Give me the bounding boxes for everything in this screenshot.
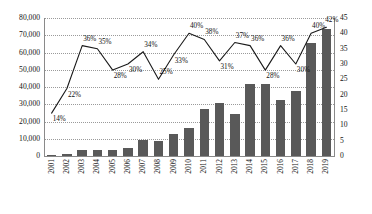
right-axis-tick-label: 30 — [340, 60, 364, 68]
x-axis-label: 2015 — [261, 159, 269, 174]
x-axis-label: 2012 — [216, 159, 224, 174]
data-label: 28% — [114, 72, 127, 80]
data-label: 42% — [325, 16, 338, 24]
x-axis-label: 2018 — [307, 159, 315, 174]
right-axis-tick-label: 15 — [340, 106, 364, 114]
x-axis-label: 2001 — [48, 159, 56, 174]
x-axis-label: 2002 — [63, 159, 71, 174]
x-axis-label: 2008 — [154, 159, 162, 174]
right-axis-tick-label: 0 — [340, 152, 364, 160]
data-label: 30% — [129, 66, 142, 74]
x-axis-label: 2014 — [246, 159, 254, 174]
right-axis-tick-label: 40 — [340, 29, 364, 37]
right-axis-tick-label: 20 — [340, 91, 364, 99]
left-axis-tick-label: 0 — [0, 152, 40, 160]
data-label: 28% — [266, 72, 279, 80]
x-axis-label: 2007 — [139, 159, 147, 174]
left-axis-tick-label: 60,000 — [0, 49, 40, 57]
x-axis-label: 2019 — [322, 159, 330, 174]
data-label: 37% — [236, 32, 249, 40]
data-label: 34% — [144, 41, 157, 49]
data-label: 14% — [53, 115, 66, 123]
chart-container: 010,00020,00030,00040,00050,00060,00070,… — [0, 0, 372, 214]
x-axis-label: 2010 — [185, 159, 193, 174]
left-axis-tick-label: 50,000 — [0, 66, 40, 74]
data-label: 38% — [205, 28, 218, 36]
left-axis-tick-label: 40,000 — [0, 83, 40, 91]
x-axis-label: 2009 — [170, 159, 178, 174]
data-label: 36% — [251, 35, 264, 43]
right-axis-tick-label: 45 — [340, 14, 364, 22]
data-label: 30% — [297, 66, 310, 74]
left-axis-tick-label: 10,000 — [0, 135, 40, 143]
left-axis-tick-label: 80,000 — [0, 14, 40, 22]
x-axis-label: 2017 — [292, 159, 300, 174]
right-axis-tick-label: 35 — [340, 45, 364, 53]
data-label: 40% — [312, 22, 325, 30]
x-axis-label: 2011 — [200, 159, 208, 174]
x-axis-label: 2003 — [78, 159, 86, 174]
x-axis-label: 2013 — [231, 159, 239, 174]
data-label: 36% — [83, 35, 96, 43]
data-label: 31% — [221, 63, 234, 71]
left-axis-tick-label: 30,000 — [0, 100, 40, 108]
data-label: 35% — [98, 38, 111, 46]
data-label: 40% — [190, 22, 203, 30]
x-axis-labels: 2001200220032004200520062007200820092010… — [44, 159, 334, 209]
x-axis-label: 2005 — [109, 159, 117, 174]
right-axis-tick-label: 10 — [340, 121, 364, 129]
right-axis-tick-label: 5 — [340, 137, 364, 145]
x-axis-label: 2006 — [124, 159, 132, 174]
right-axis-tick-label: 25 — [340, 75, 364, 83]
data-label: 25% — [159, 68, 172, 76]
right-axis-line — [334, 18, 335, 157]
data-label: 33% — [175, 57, 188, 65]
left-axis-tick-label: 20,000 — [0, 118, 40, 126]
x-axis-line — [44, 156, 335, 157]
data-label: 22% — [68, 91, 81, 99]
data-label: 36% — [282, 35, 295, 43]
x-axis-label: 2004 — [93, 159, 101, 174]
x-axis-label: 2016 — [277, 159, 285, 174]
left-axis-tick-label: 70,000 — [0, 31, 40, 39]
